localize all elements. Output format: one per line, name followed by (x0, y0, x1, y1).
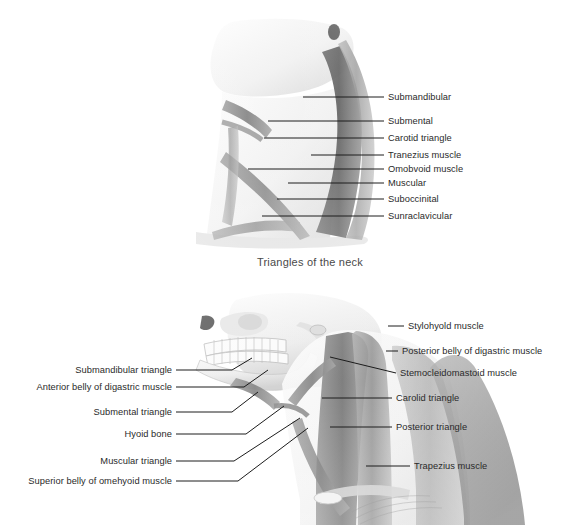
label-top-0: Submandibular (388, 92, 451, 103)
label-bottom-left-5: Superior belly of omehyoid muscle (28, 476, 172, 487)
label-bottom-right-0: Stylohyold muscle (408, 321, 484, 332)
neck-profile-illustration (190, 14, 380, 254)
label-bottom-right-2: Stemocleidomastoid muscle (400, 368, 517, 379)
label-bottom-right-1: Posterior belly of digastric muscle (402, 346, 542, 357)
label-top-1: Submental (388, 116, 433, 127)
label-bottom-right-3: Carolid triangle (396, 393, 459, 404)
label-bottom-left-0: Submandibular triangle (75, 365, 172, 376)
label-bottom-left-4: Muscular triangle (100, 456, 172, 467)
label-bottom-left-3: Hyoid bone (124, 429, 172, 440)
label-bottom-left-2: Submental triangle (94, 407, 172, 418)
skull-neck-illustration (180, 288, 540, 525)
label-bottom-right-4: Posterior triangle (396, 422, 467, 433)
label-bottom-right-5: Trapezius muscle (414, 461, 487, 472)
label-top-4: Omobvoid muscle (388, 164, 463, 175)
label-bottom-left-1: Anterior belly of digastric muscle (36, 382, 172, 393)
label-top-2: Carotid triangle (388, 133, 452, 144)
label-top-6: Suboccinital (388, 194, 439, 205)
label-top-3: Tranezius muscle (388, 150, 461, 161)
label-top-5: Muscular (388, 178, 426, 189)
figure-top-caption: Triangles of the neck (257, 256, 363, 268)
label-top-7: Sunraclavicular (388, 211, 452, 222)
